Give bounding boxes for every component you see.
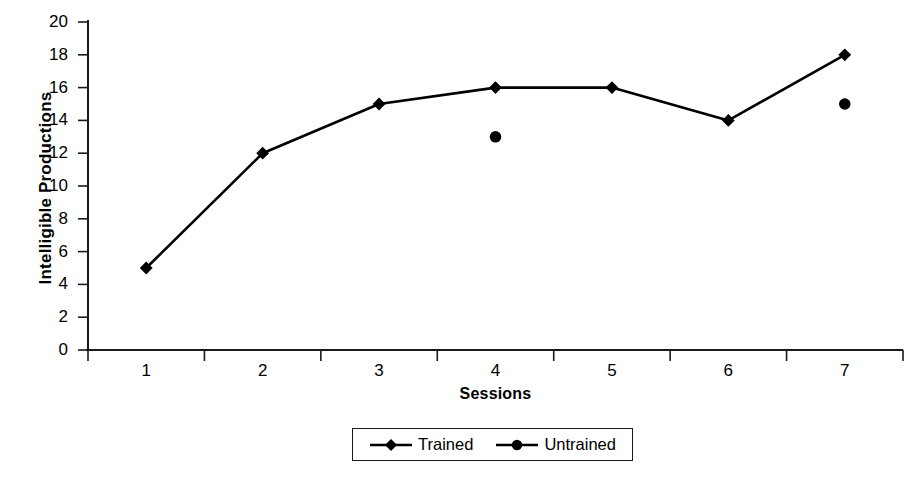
x-tick-label: 1 (116, 362, 176, 379)
y-tick-label: 8 (28, 210, 68, 227)
x-axis-ticks (88, 350, 903, 361)
x-tick-label: 5 (582, 362, 642, 379)
circle-marker-icon (495, 437, 539, 453)
x-tick-label: 3 (349, 362, 409, 379)
y-tick-label: 12 (28, 144, 68, 161)
data-point-untrained-session-7 (839, 98, 851, 110)
chart-figure: Intelligible Productions 201816141210864… (0, 0, 916, 484)
y-tick-label: 4 (28, 275, 68, 292)
data-point-untrained-session-4 (490, 131, 502, 143)
y-tick-label: 20 (28, 13, 68, 30)
data-point-trained-session-7 (838, 48, 851, 61)
legend-label-untrained: Untrained (544, 436, 616, 453)
data-point-trained-session-5 (606, 81, 619, 94)
x-tick-label: 7 (815, 362, 875, 379)
x-tick-label: 6 (698, 362, 758, 379)
y-tick-label: 18 (28, 46, 68, 63)
y-axis-ticks (78, 22, 88, 350)
legend-entry-untrained: Untrained (495, 436, 616, 453)
y-tick-label: 6 (28, 243, 68, 260)
legend-entry-trained: Trained (369, 436, 473, 453)
x-tick-label: 4 (466, 362, 526, 379)
x-axis-title: Sessions (88, 385, 903, 403)
legend-label-trained: Trained (418, 436, 473, 453)
y-tick-label: 16 (28, 79, 68, 96)
data-point-trained-session-6 (722, 114, 735, 127)
y-tick-label: 2 (28, 308, 68, 325)
plot-area (0, 0, 916, 484)
series-markers (140, 48, 851, 274)
chart-legend: Trained Untrained (352, 428, 633, 461)
diamond-marker-icon (369, 437, 413, 453)
data-point-trained-session-3 (373, 98, 386, 111)
x-tick-label: 2 (233, 362, 293, 379)
y-tick-label: 10 (28, 177, 68, 194)
data-point-trained-session-4 (489, 81, 502, 94)
y-tick-label: 0 (28, 341, 68, 358)
y-tick-label: 14 (28, 111, 68, 128)
